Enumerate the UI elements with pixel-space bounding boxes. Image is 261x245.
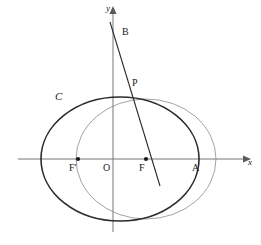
point-label-f: F — [139, 163, 145, 173]
y-axis-arrowhead — [109, 6, 116, 14]
point-dot-f-prime — [76, 157, 80, 161]
curve-label-c: C — [55, 91, 62, 102]
y-axis-label: y — [106, 4, 110, 13]
point-label-b: B — [122, 27, 129, 37]
point-label-f-prime: F′ — [69, 163, 77, 173]
figure-canvas — [0, 0, 261, 245]
point-dot-f — [144, 157, 148, 161]
geometry-figure: x y O F F′ A P B C — [0, 0, 261, 245]
point-label-o: O — [103, 163, 110, 173]
point-label-a: A — [192, 163, 199, 173]
point-label-p: P — [132, 78, 138, 88]
x-axis-label: x — [248, 158, 252, 167]
